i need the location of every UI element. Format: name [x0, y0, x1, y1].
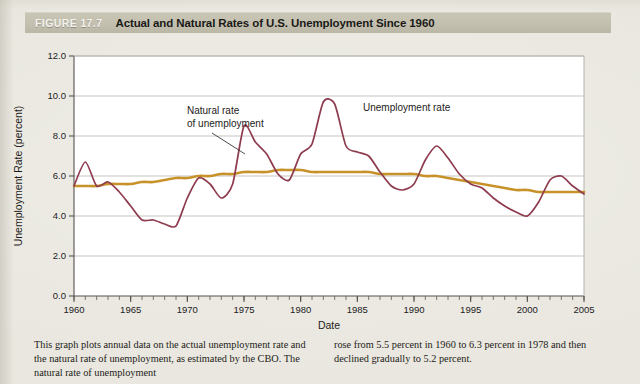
- caption-text-right: rose from 5.5 percent in 1960 to 6.3 per…: [334, 338, 612, 366]
- natural-rate-annotation-line1: Natural rate: [187, 105, 240, 116]
- x-tick-label: 1970: [177, 304, 198, 315]
- x-tick-label: 1980: [290, 304, 311, 315]
- figure-number-label: FIGURE 17.7: [35, 17, 102, 29]
- caption-column-right: rose from 5.5 percent in 1960 to 6.3 per…: [334, 338, 612, 381]
- caption-column-left: This graph plots annual data on the actu…: [34, 338, 312, 381]
- x-tick-label: 1965: [120, 304, 141, 315]
- y-axis-title: Unemployment Rate (percent): [12, 106, 24, 247]
- y-tick-label: 12.0: [48, 50, 67, 61]
- natural-rate-annotation-line2: of unemployment: [187, 118, 264, 129]
- x-tick-label: 1975: [233, 304, 254, 315]
- x-axis-title: Date: [318, 319, 340, 331]
- y-tick-label: 0.0: [53, 290, 66, 301]
- y-tick-label: 2.0: [53, 250, 66, 261]
- unemployment-rate-annotation: Unemployment rate: [363, 102, 451, 113]
- x-axis-minor-ticks: [74, 296, 584, 300]
- y-tick-label: 10.0: [48, 90, 67, 101]
- figure-caption: This graph plots annual data on the actu…: [34, 338, 612, 381]
- y-tick-label: 4.0: [53, 210, 66, 221]
- y-tick-label: 6.0: [53, 170, 66, 181]
- x-axis-tick-labels: 1960196519701975198019851990199520002005: [63, 304, 594, 315]
- figure-page: FIGURE 17.7 Actual and Natural Rates of …: [0, 0, 640, 384]
- x-tick-label: 1960: [63, 304, 84, 315]
- chart-region: 0.02.04.06.08.010.012.0 1960196519701975…: [0, 36, 640, 332]
- x-tick-label: 2005: [573, 304, 594, 315]
- y-axis-ticks: [69, 56, 74, 296]
- unemployment-line-chart: 0.02.04.06.08.010.012.0 1960196519701975…: [0, 36, 640, 332]
- x-axis-major-ticks: [74, 296, 584, 302]
- x-tick-label: 1990: [403, 304, 424, 315]
- x-tick-label: 1985: [347, 304, 368, 315]
- y-axis-tick-labels: 0.02.04.06.08.010.012.0: [48, 50, 67, 301]
- x-tick-label: 2000: [517, 304, 538, 315]
- figure-title: Actual and Natural Rates of U.S. Unemplo…: [115, 17, 434, 29]
- caption-text-left: This graph plots annual data on the actu…: [34, 338, 312, 381]
- figure-header-bar: FIGURE 17.7 Actual and Natural Rates of …: [25, 12, 611, 33]
- x-tick-label: 1995: [460, 304, 481, 315]
- y-tick-label: 8.0: [53, 130, 66, 141]
